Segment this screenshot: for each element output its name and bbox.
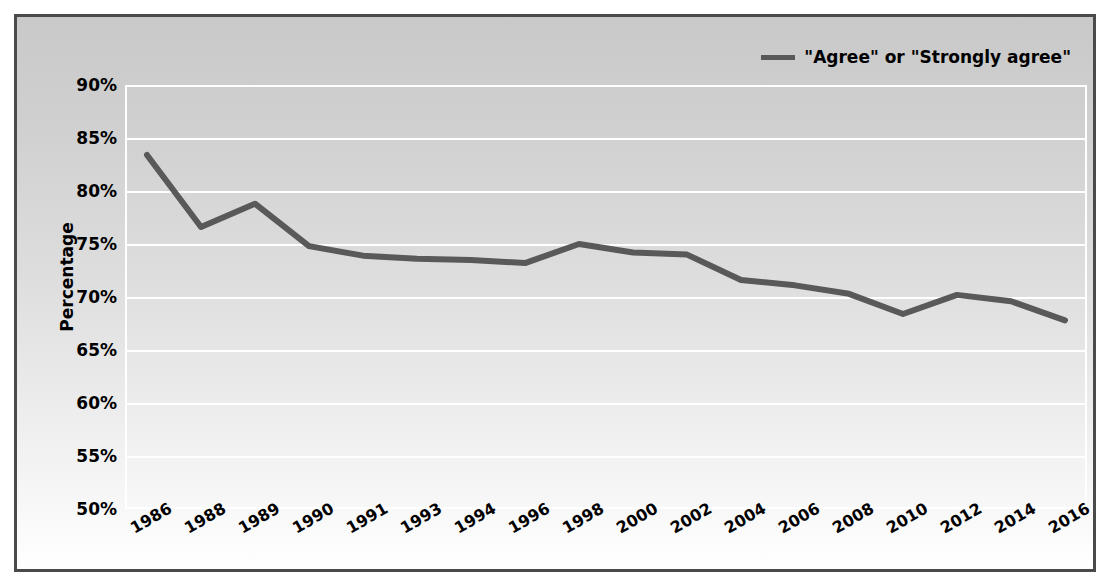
y-axis-tick-label: 90% xyxy=(76,77,117,94)
chart-screenshot: "Agree" or "Strongly agree" Percentage 9… xyxy=(0,0,1114,588)
legend-line-swatch xyxy=(761,55,795,60)
y-axis-tick-labels: 90%85%80%75%70%65%60%55%50% xyxy=(45,85,117,509)
plot-area xyxy=(125,85,1087,509)
y-axis-tick-label: 70% xyxy=(76,289,117,306)
line-series-agree-or-strongly-agree xyxy=(147,155,1065,320)
data-series-svg xyxy=(125,85,1087,509)
y-axis-tick-label: 80% xyxy=(76,183,117,200)
y-axis-tick-label: 50% xyxy=(76,501,117,518)
y-axis-tick-label: 60% xyxy=(76,395,117,412)
chart-frame: "Agree" or "Strongly agree" Percentage 9… xyxy=(14,14,1096,572)
y-axis-tick-label: 65% xyxy=(76,342,117,359)
x-axis-tick-labels: 1986198819891990199119931994199619982000… xyxy=(125,509,1087,588)
chart-legend: "Agree" or "Strongly agree" xyxy=(761,47,1071,67)
legend-label-agree-or-strongly-agree: "Agree" or "Strongly agree" xyxy=(804,47,1071,67)
y-axis-tick-label: 75% xyxy=(76,236,117,253)
y-axis-tick-label: 55% xyxy=(76,448,117,465)
y-axis-tick-label: 85% xyxy=(76,130,117,147)
